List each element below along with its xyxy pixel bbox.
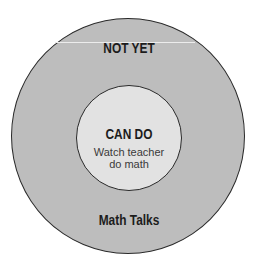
- can-do-label: CAN DO: [19, 126, 238, 142]
- math-talks-label: Math Talks: [19, 212, 238, 228]
- can-do-desc-line1: Watch teacher: [0, 146, 258, 158]
- can-do-desc-line2: do math: [0, 158, 258, 170]
- not-yet-label: NOT YET: [19, 40, 238, 56]
